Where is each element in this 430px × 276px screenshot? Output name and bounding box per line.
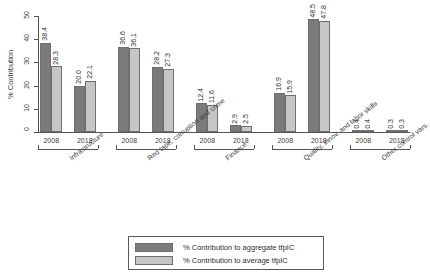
group-rule-cap (98, 145, 99, 149)
bar (230, 125, 241, 132)
x-year-label: 2008 (115, 137, 143, 144)
bar (152, 67, 163, 132)
group-rule-cap (332, 145, 333, 149)
bar-value-label: 47.8 (320, 5, 328, 19)
y-tick-label: 10 (22, 104, 31, 112)
group-rule-cap (272, 145, 273, 149)
legend-swatch (135, 256, 173, 265)
y-tick-mark (34, 39, 38, 40)
group-rule-cap (254, 145, 255, 149)
group-rule (350, 149, 410, 150)
bar-value-label: 28.2 (153, 51, 161, 65)
bar (352, 130, 363, 132)
bar (40, 43, 51, 132)
legend-item: % Contribution to average tfpIC (135, 255, 288, 266)
group-rule (272, 149, 332, 150)
bar (363, 130, 374, 132)
group-rule-cap (116, 145, 117, 149)
y-tick-mark (34, 132, 38, 133)
x-axis-line (38, 132, 410, 133)
y-tick-mark (34, 86, 38, 87)
bar (51, 66, 62, 132)
x-year-label: 2008 (271, 137, 299, 144)
y-tick-label: 20 (22, 81, 31, 89)
bar (386, 130, 397, 132)
bar (274, 93, 285, 132)
bar-value-label: 15.9 (286, 80, 294, 94)
group-rule-cap (350, 145, 351, 149)
bar (74, 86, 85, 132)
bar (129, 48, 140, 132)
x-year-label: 2008 (349, 137, 377, 144)
group-rule-cap (194, 145, 195, 149)
y-tick-mark (34, 109, 38, 110)
bar (397, 130, 408, 132)
x-category-label: Infrastructure (68, 131, 105, 162)
y-tick-label: 40 (22, 34, 31, 42)
bar (85, 81, 96, 132)
bar (163, 69, 174, 132)
y-tick-mark (34, 16, 38, 17)
x-year-label: 2008 (37, 137, 65, 144)
bar-value-label: 38.4 (41, 27, 49, 41)
y-tick-mark (34, 62, 38, 63)
bar-value-label: 27.3 (164, 53, 172, 67)
bar (285, 95, 296, 132)
group-rule-cap (38, 145, 39, 149)
y-tick-label: 50 (22, 11, 31, 19)
bar-value-label: 2.9 (231, 114, 239, 124)
legend-swatch (135, 243, 173, 252)
bar-value-label: 0.3 (398, 119, 406, 129)
bar-value-label: 0.4 (364, 119, 372, 129)
bar-value-label: 22.1 (86, 65, 94, 79)
bar (118, 47, 129, 132)
legend-label: % Contribution to average tfpIC (183, 256, 288, 265)
bar (308, 19, 319, 132)
bar-value-label: 20.0 (75, 70, 83, 84)
group-rule (38, 149, 98, 150)
bar (319, 21, 330, 132)
bar-value-label: 36.1 (130, 33, 138, 47)
legend: % Contribution to aggregate tfpIC% Contr… (128, 236, 324, 270)
bar-value-label: 36.6 (119, 31, 127, 45)
bar-value-label: 28.3 (52, 51, 60, 65)
x-year-label: 2008 (193, 137, 221, 144)
bar-value-label: 0.3 (387, 119, 395, 129)
group-rule-cap (410, 145, 411, 149)
group-rule (194, 149, 254, 150)
bar-value-label: 16.9 (275, 77, 283, 91)
bar-value-label: 12.4 (197, 88, 205, 102)
bar (241, 126, 252, 132)
y-axis-line (38, 16, 39, 132)
legend-item: % Contribution to aggregate tfpIC (135, 242, 294, 253)
y-tick-label: 0 (22, 127, 31, 131)
bar-value-label: 2.5 (242, 114, 250, 124)
legend-label: % Contribution to aggregate tfpIC (183, 243, 294, 252)
bar-value-label: 48.5 (309, 4, 317, 18)
group-rule-cap (176, 145, 177, 149)
y-tick-label: 30 (22, 57, 31, 65)
group-rule (116, 149, 176, 150)
y-axis-title: % Contribution (4, 16, 16, 132)
